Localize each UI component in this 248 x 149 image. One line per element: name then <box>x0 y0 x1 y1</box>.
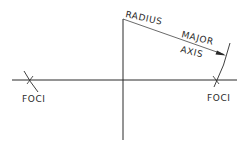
radius-label: RADIUS <box>125 9 164 27</box>
radius-arrowhead-icon <box>216 51 227 56</box>
left-foci-label: FOCI <box>22 94 46 104</box>
right-foci-label: FOCI <box>207 93 231 103</box>
left-focus-arc <box>24 71 38 92</box>
ellipse-construction-diagram: RADIUS MAJOR AXIS FOCI FOCI <box>0 0 248 149</box>
